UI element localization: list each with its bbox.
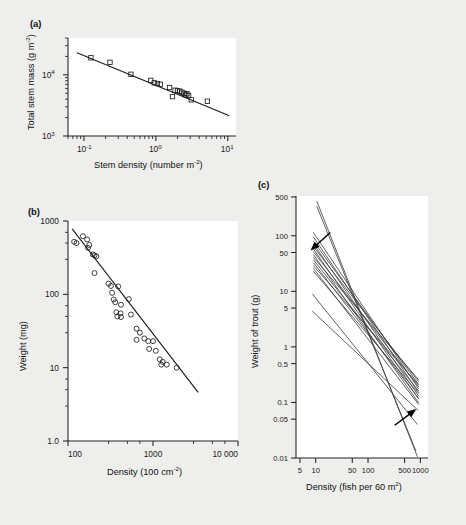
- panel-b-xtick-label: 1000: [144, 449, 163, 459]
- panel-c-ytick-label: 0.01: [273, 454, 288, 463]
- panel-b-label: (b): [28, 206, 40, 217]
- panel-b-svg: (b) 100100010 0001.0101001000 Density (1…: [0, 193, 255, 525]
- panel-c-xtick-label: 50: [348, 466, 356, 475]
- panel-a-xtick-label: 10-1: [77, 143, 92, 154]
- panel-c-xtick-label: 1000: [412, 466, 429, 475]
- panel-a-ytick-label: 104: [42, 68, 55, 79]
- panel-a-plot-background: [68, 38, 236, 136]
- panel-c-ytick-label: 50: [280, 249, 288, 258]
- panel-c-ytick-label: 5: [284, 304, 288, 313]
- panel-b-ytick-label: 10: [50, 363, 60, 373]
- figure-container: (a) 10-1100101103104 Stem density (numbe…: [0, 0, 466, 525]
- panel-c-xtick-label: 100: [362, 466, 375, 475]
- panel-c-ytick-label: 0.5: [277, 360, 288, 369]
- panel-c-ytick-label: 100: [275, 232, 288, 241]
- panel-c-ytick-label: 0.05: [273, 415, 288, 424]
- panel-b-ytick-label: 1000: [40, 216, 59, 226]
- panel-c-ytick-label: 1: [284, 343, 288, 352]
- panel-a-svg: (a) 10-1100101103104 Stem density (numbe…: [0, 0, 250, 190]
- panel-a-xtick-label: 101: [221, 143, 234, 154]
- panel-b-plot-background: [68, 221, 238, 441]
- panel-a-yaxis-title: Total stem mass (g m-2): [24, 34, 36, 130]
- panel-a-xaxis-title: Stem density (number m-2): [94, 158, 203, 170]
- panel-c-xaxis-title: Density (fish per 60 m2): [306, 480, 402, 492]
- panel-b-xtick-label: 100: [68, 449, 82, 459]
- panel-a-xtick-label: 100: [149, 143, 162, 154]
- panel-a-label: (a): [30, 18, 41, 29]
- panel-c: (c) 5105010050010000.010.050.10.51510501…: [232, 172, 466, 525]
- panel-c-xtick-label: 500: [398, 466, 411, 475]
- panel-c-svg: (c) 5105010050010000.010.050.10.51510501…: [232, 172, 466, 525]
- panel-b-ytick-label: 100: [45, 289, 59, 299]
- panel-b-yaxis-title: Weight (mg): [18, 321, 28, 371]
- panel-c-ytick-label: 500: [275, 193, 288, 202]
- panel-c-label: (c): [258, 179, 269, 190]
- panel-b: (b) 100100010 0001.0101001000 Density (1…: [0, 193, 255, 525]
- panel-c-ytick-label: 0.1: [277, 398, 288, 407]
- panel-b-xaxis-title: Density (100 cm-2): [107, 465, 182, 477]
- panel-a-ytick-label: 103: [42, 130, 55, 141]
- panel-b-ytick-label: 1.0: [47, 436, 59, 446]
- panel-c-yaxis-title: Weight of trout (g): [250, 295, 260, 368]
- panel-c-plot-background: [296, 196, 428, 458]
- panel-c-xtick-label: 10: [311, 466, 319, 475]
- panel-c-xtick-label: 5: [298, 466, 302, 475]
- panel-c-ytick-label: 10: [280, 287, 288, 296]
- panel-a: (a) 10-1100101103104 Stem density (numbe…: [0, 0, 250, 190]
